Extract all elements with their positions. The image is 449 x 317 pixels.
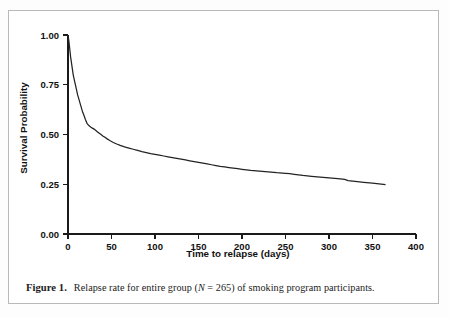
axes-group (68, 35, 416, 234)
caption-n-value: = 265) (205, 282, 235, 293)
y-tick-label: 0.50 (41, 129, 60, 140)
x-tick-label: 350 (365, 241, 381, 252)
x-tick-label: 400 (408, 241, 424, 252)
tick-labels-group: 0501001502002503003504000.000.250.500.75… (41, 30, 424, 253)
y-tick-label: 0.25 (41, 179, 60, 190)
caption-n-symbol: N (198, 282, 205, 293)
y-axis-title: Survival Probability (18, 82, 29, 174)
caption-text-after-n: of smoking program participants. (235, 282, 375, 293)
chart-svg: 0501001502002503003504000.000.250.500.75… (8, 10, 439, 268)
x-tick-label: 50 (106, 241, 117, 252)
y-tick-label: 0.75 (41, 79, 60, 90)
figure-page: 0501001502002503003504000.000.250.500.75… (0, 0, 449, 317)
x-tick-label: 0 (65, 241, 70, 252)
figure-caption: Figure 1.Relapse rate for entire group (… (26, 281, 428, 295)
caption-text-before-n: Relapse rate for entire group ( (74, 282, 198, 293)
x-tick-label: 300 (321, 241, 337, 252)
survival-curve-line (68, 35, 386, 185)
x-tick-label: 100 (147, 241, 163, 252)
x-axis-title: Time to relapse (days) (186, 248, 289, 259)
y-tick-label: 1.00 (41, 30, 60, 41)
caption-label: Figure 1. (26, 282, 67, 293)
y-tick-label: 0.00 (41, 229, 60, 240)
survival-curve-chart: 0501001502002503003504000.000.250.500.75… (8, 10, 439, 268)
ticks-group (63, 35, 416, 239)
